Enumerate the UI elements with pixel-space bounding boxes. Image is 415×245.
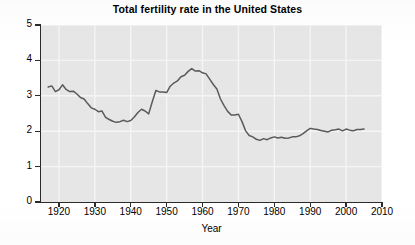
x-tick-label: 1930 bbox=[75, 206, 115, 217]
y-tick-label: 5 bbox=[16, 18, 32, 29]
y-tick-label: 1 bbox=[16, 160, 32, 171]
y-axis-line bbox=[40, 24, 41, 203]
x-tick-label: 1980 bbox=[254, 206, 294, 217]
y-tick-mark bbox=[35, 60, 41, 61]
y-tick-label: 2 bbox=[16, 124, 32, 135]
x-tick-label: 1940 bbox=[111, 206, 151, 217]
x-tick-label: 1950 bbox=[147, 206, 187, 217]
y-tick-mark bbox=[35, 166, 41, 167]
x-tick-label: 1960 bbox=[183, 206, 223, 217]
y-tick-label: 3 bbox=[16, 89, 32, 100]
y-tick-mark bbox=[35, 24, 41, 25]
y-tick-label: 0 bbox=[16, 195, 32, 206]
y-tick-label: 4 bbox=[16, 53, 32, 64]
chart-figure: Total fertility rate in the United State… bbox=[0, 0, 415, 245]
chart-title: Total fertility rate in the United State… bbox=[0, 3, 415, 15]
data-series-group bbox=[48, 69, 364, 141]
x-axis-title: Year bbox=[41, 223, 382, 234]
plot-svg bbox=[41, 25, 382, 202]
x-tick-label: 2000 bbox=[326, 206, 366, 217]
x-tick-label: 1970 bbox=[218, 206, 258, 217]
y-tick-mark bbox=[35, 95, 41, 96]
x-axis-line bbox=[40, 202, 383, 203]
y-tick-mark bbox=[35, 131, 41, 132]
x-tick-label: 2010 bbox=[362, 206, 402, 217]
x-tick-label: 1990 bbox=[290, 206, 330, 217]
x-tick-label: 1920 bbox=[39, 206, 79, 217]
y-tick-mark bbox=[35, 201, 41, 202]
gridlines bbox=[41, 25, 382, 202]
data-line-0 bbox=[48, 69, 364, 141]
plot-area bbox=[41, 25, 382, 202]
